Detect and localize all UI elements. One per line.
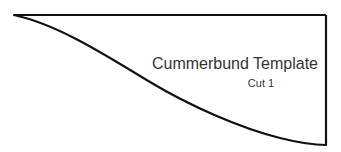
template-title: Cummerbund Template xyxy=(0,55,318,73)
template-subtitle: Cut 1 xyxy=(236,77,286,90)
template-outline xyxy=(0,0,341,152)
cummerbund-template-diagram: Cummerbund Template Cut 1 xyxy=(0,0,341,152)
